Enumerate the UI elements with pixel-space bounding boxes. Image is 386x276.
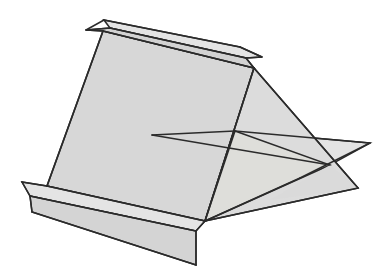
top-flap-right-end-lower: [246, 57, 262, 58]
figure-canvas: [0, 0, 386, 276]
folded-plane-diagram: [0, 0, 386, 276]
